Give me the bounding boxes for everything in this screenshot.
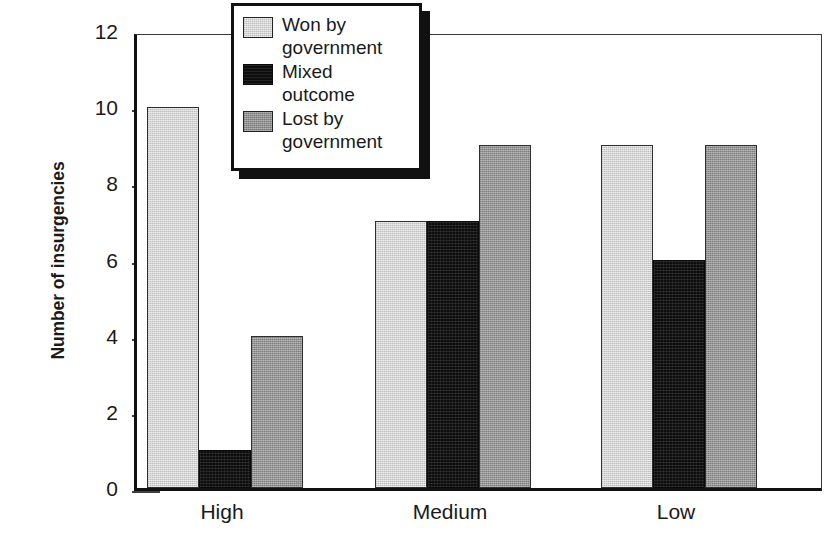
y-tick-mark xyxy=(132,491,160,493)
legend-swatch-series-0 xyxy=(243,17,273,38)
y-tick-label: 12 xyxy=(58,20,118,44)
legend-swatch-series-1 xyxy=(243,64,273,85)
x-tick-label-medium: Medium xyxy=(370,500,530,524)
bar-high-mixed-outcome xyxy=(199,450,251,488)
y-tick-label: 8 xyxy=(58,172,118,196)
legend-label: Won bygovernment xyxy=(282,13,382,59)
legend-label: Mixedoutcome xyxy=(282,60,355,106)
y-tick-label: 2 xyxy=(58,401,118,425)
y-tick-label: 0 xyxy=(58,477,118,501)
y-tick-label: 4 xyxy=(58,325,118,349)
bar-medium-lost-by-government xyxy=(479,145,531,488)
legend-item-mixed-outcome: Mixedoutcome xyxy=(243,60,419,106)
bar-high-won-by-government xyxy=(147,107,199,488)
legend-item-won-by-government: Won bygovernment xyxy=(243,13,419,59)
bar-chart-figure: Number of insurgencies 024681012 HighMed… xyxy=(0,0,832,549)
chart-legend: Won bygovernmentMixedoutcomeLost bygover… xyxy=(231,3,422,171)
y-tick-label: 10 xyxy=(58,96,118,120)
legend-swatch-series-2 xyxy=(243,111,273,132)
bar-medium-mixed-outcome xyxy=(427,221,479,488)
bar-medium-won-by-government xyxy=(375,221,427,488)
bar-low-won-by-government xyxy=(601,145,653,488)
bar-low-mixed-outcome xyxy=(653,260,705,489)
legend-item-lost-by-government: Lost bygovernment xyxy=(243,107,419,153)
bar-high-lost-by-government xyxy=(251,336,303,488)
legend-label: Lost bygovernment xyxy=(282,107,382,153)
x-tick-label-low: Low xyxy=(596,500,756,524)
y-tick-label: 6 xyxy=(58,249,118,273)
bar-low-lost-by-government xyxy=(705,145,757,488)
x-tick-label-high: High xyxy=(142,500,302,524)
